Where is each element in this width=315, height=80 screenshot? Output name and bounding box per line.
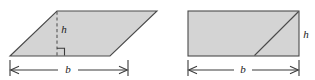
figure-canvas: h b h (0, 0, 315, 80)
rectangle-height-label: h (303, 28, 309, 40)
parallelogram-base-label: b (65, 63, 71, 75)
rectangle-shape (188, 11, 299, 56)
parallelogram-height-label: h (61, 23, 67, 35)
parallelogram-shape (10, 11, 157, 56)
rectangle-base-label: b (240, 63, 246, 75)
geometry-figure: h b h (0, 0, 315, 80)
rectangle-panel: h b (188, 11, 309, 76)
parallelogram-panel: h b (10, 11, 157, 76)
